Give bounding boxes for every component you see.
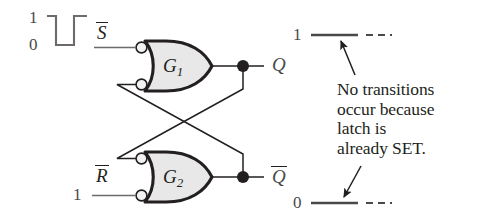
gate-label-g1: G1 bbox=[163, 56, 183, 78]
input-low-level-label: 0 bbox=[29, 36, 38, 53]
input-high-level-label: 1 bbox=[29, 9, 38, 26]
annotation-line-2: occur because bbox=[337, 100, 485, 120]
g1-input-bubble-top bbox=[136, 42, 147, 53]
signal-label-s-bar: S bbox=[97, 22, 107, 42]
annotation-arrow-q bbox=[341, 41, 355, 75]
gate-g2-subscript: 2 bbox=[177, 175, 184, 190]
output-waveform-q bbox=[311, 35, 392, 75]
gate-g2-letter: G bbox=[163, 166, 177, 187]
q-waveform-level-label: 1 bbox=[293, 26, 302, 43]
annotation-note: No transitions occur because latch is al… bbox=[337, 80, 485, 158]
r-bar-letter: R bbox=[96, 165, 108, 185]
annotation-line-3: latch is bbox=[337, 119, 485, 139]
annotation-line-1: No transitions bbox=[337, 80, 485, 100]
output-label-q-bar: Q bbox=[272, 166, 286, 186]
s-bar-letter: S bbox=[97, 22, 107, 42]
output-waveform-qbar bbox=[311, 166, 392, 203]
g2-input-bubble-bottom bbox=[136, 190, 147, 201]
gate-label-g2: G2 bbox=[163, 167, 183, 189]
gate-g1-subscript: 1 bbox=[177, 64, 184, 79]
rbar-input-value: 1 bbox=[73, 186, 82, 203]
gate-g1-letter: G bbox=[163, 55, 177, 76]
input-waveform-sbar bbox=[47, 16, 87, 45]
wire-q-output bbox=[212, 60, 264, 72]
signal-label-r-bar: R bbox=[96, 165, 108, 185]
annotation-arrow-qbar bbox=[344, 166, 361, 197]
q-bar-letter: Q bbox=[272, 166, 286, 186]
g1-input-bubble-bottom bbox=[136, 79, 147, 90]
wire-qbar-output bbox=[212, 171, 264, 183]
figure-nor-latch-diagram: 1 0 S R 1 G1 G2 Q Q 1 0 No transitions o… bbox=[0, 0, 485, 221]
qbar-waveform-level-label: 0 bbox=[293, 194, 302, 211]
output-label-q: Q bbox=[272, 55, 286, 74]
g2-input-bubble-top bbox=[136, 153, 147, 164]
annotation-line-4: already SET. bbox=[337, 139, 485, 159]
